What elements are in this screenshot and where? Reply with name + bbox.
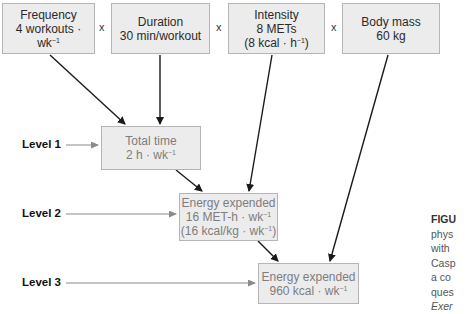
- multiply-sign-2: x: [216, 21, 222, 33]
- body-mass-value: 60 kg: [376, 29, 405, 43]
- energy-l2-title: Energy expended: [181, 196, 275, 210]
- caption-line-5: a co: [431, 270, 456, 285]
- intensity-value: 8 METs: [256, 22, 296, 36]
- level-1-label: Level 1: [22, 138, 61, 150]
- intensity-box: Intensity 8 METs (8 kcal · h−1): [228, 3, 325, 54]
- duration-box: Duration 30 min/workout: [111, 3, 210, 54]
- frequency-value: 4 workouts · wk−1: [3, 22, 94, 50]
- energy-l3-title: Energy expended: [261, 270, 355, 284]
- multiply-sign-1: x: [99, 21, 105, 33]
- caption-line-1: FIGU: [431, 212, 456, 227]
- arrow-energy-l2-to-energy-l3: [258, 241, 278, 261]
- arrow-intensity-to-energy-l2: [249, 55, 272, 191]
- body-mass-title: Body mass: [361, 15, 420, 29]
- level-2-label: Level 2: [22, 207, 61, 219]
- total-time-title: Total time: [125, 134, 176, 148]
- caption-line-2: phys: [431, 227, 456, 242]
- figure-caption: FIGU phys with Casp a co ques Exer: [431, 212, 456, 314]
- energy-expended-level-2-box: Energy expended 16 MET-h · wk−1 (16 kcal…: [179, 193, 278, 241]
- energy-expended-level-3-box: Energy expended 960 kcal · wk−1: [258, 263, 359, 304]
- frequency-box: Frequency 4 workouts · wk−1: [2, 3, 95, 54]
- caption-line-4: Casp: [431, 256, 456, 271]
- total-time-value: 2 h · wk−1: [126, 148, 176, 162]
- duration-value: 30 min/workout: [120, 29, 201, 43]
- energy-l2-kcal-value: (16 kcal/kg · wk−1): [181, 224, 276, 238]
- energy-l2-met-value: 16 MET-h · wk−1: [186, 210, 271, 224]
- caption-line-6: ques: [431, 285, 456, 300]
- total-time-box: Total time 2 h · wk−1: [101, 126, 201, 170]
- body-mass-box: Body mass 60 kg: [342, 3, 440, 54]
- caption-line-7: Exer: [431, 299, 456, 314]
- frequency-title: Frequency: [20, 8, 77, 22]
- intensity-title: Intensity: [254, 8, 299, 22]
- energy-l3-value: 960 kcal · wk−1: [269, 284, 347, 298]
- duration-title: Duration: [138, 15, 183, 29]
- level-3-label: Level 3: [22, 276, 61, 288]
- arrow-body-mass-to-energy-l3: [330, 55, 388, 261]
- caption-line-3: with: [431, 241, 456, 256]
- arrow-total-time-to-energy-l2: [176, 170, 202, 191]
- intensity-kcal: (8 kcal · h−1): [244, 36, 309, 50]
- multiply-sign-3: x: [331, 21, 337, 33]
- arrow-frequency-to-total-time: [50, 55, 125, 124]
